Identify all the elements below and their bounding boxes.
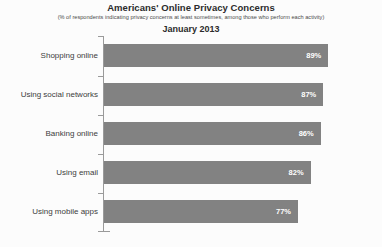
category-label: Banking online <box>46 122 98 145</box>
bar-row: Banking online 86% <box>0 122 382 145</box>
chart-subtitle: (% of respondents indicating privacy con… <box>0 13 382 22</box>
bar-row: Using social networks 87% <box>0 83 382 106</box>
chart-title: Americans' Online Privacy Concerns <box>0 2 382 13</box>
bar[interactable]: 87% <box>104 83 323 106</box>
axis-tick <box>98 231 103 232</box>
category-label: Using social networks <box>21 83 98 106</box>
axis-tick <box>98 115 103 116</box>
chart-container: Americans' Online Privacy Concerns (% of… <box>0 0 382 247</box>
bar-row: Using mobile apps 77% <box>0 200 382 223</box>
category-label: Using email <box>56 161 98 184</box>
axis-tick <box>98 154 103 155</box>
chart-title-block: Americans' Online Privacy Concerns (% of… <box>0 2 382 35</box>
bar-value-label: 77% <box>276 200 291 223</box>
bar-value-label: 87% <box>301 83 316 106</box>
bar-row: Using email 82% <box>0 161 382 184</box>
bar-value-label: 86% <box>299 122 314 145</box>
bar-value-label: 82% <box>289 161 304 184</box>
bar-value-label: 89% <box>306 44 321 67</box>
chart-period-label: January 2013 <box>0 23 382 35</box>
axis-tick <box>98 36 103 37</box>
bar[interactable]: 89% <box>104 44 328 67</box>
category-axis-foot <box>103 231 110 232</box>
bar[interactable]: 86% <box>104 122 321 145</box>
bar[interactable]: 82% <box>104 161 311 184</box>
bar[interactable]: 77% <box>104 200 298 223</box>
category-label: Shopping online <box>41 44 98 67</box>
plot-area: Shopping online 89% Using social network… <box>0 36 382 236</box>
axis-tick <box>98 76 103 77</box>
bar-row: Shopping online 89% <box>0 44 382 67</box>
category-label: Using mobile apps <box>32 200 98 223</box>
axis-tick <box>98 193 103 194</box>
